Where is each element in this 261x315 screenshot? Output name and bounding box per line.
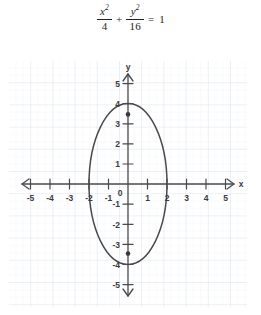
- y-tick-label: -2: [112, 220, 120, 230]
- x-tick-label: -3: [66, 193, 74, 203]
- fraction-numerator: y2: [128, 6, 143, 18]
- graph-panel: -5 -4 -3 -2 -1 1 2 3 4 5 0 5 4 3 2 1 -1: [8, 60, 248, 308]
- x-tick-label: -2: [85, 193, 93, 203]
- coordinate-plane: -5 -4 -3 -2 -1 1 2 3 4 5 0 5 4 3 2 1 -1: [8, 60, 248, 308]
- focus-point-upper: [126, 112, 131, 117]
- fraction-denominator: 16: [126, 21, 143, 33]
- equals-sign: =: [148, 13, 154, 25]
- x-tick-label: -1: [105, 193, 113, 203]
- fraction-x-squared-over-4: x2 4: [97, 6, 112, 32]
- y-tick-label: 5: [115, 79, 120, 89]
- x-tick-label: 5: [223, 193, 228, 203]
- origin-label: 0: [118, 188, 123, 198]
- focus-point-lower: [126, 251, 131, 256]
- y-tick-label: 1: [115, 159, 120, 169]
- y-tick-label: -4: [112, 260, 120, 270]
- y-tick-label: 3: [115, 119, 120, 129]
- y-tick-label: 4: [115, 99, 120, 109]
- exponent-2: 2: [136, 3, 140, 12]
- y-tick-label: -5: [112, 280, 120, 290]
- fraction-numerator: x2: [97, 6, 112, 18]
- y-tick-label: -1: [112, 199, 120, 209]
- y-tick-label: 2: [115, 139, 120, 149]
- fraction-denominator: 4: [99, 21, 111, 33]
- x-tick-label: 2: [165, 193, 170, 203]
- x-axis-label: x: [239, 179, 244, 189]
- x-tick-label: -5: [27, 193, 35, 203]
- equation-container: x2 4 + y2 16 = 1: [0, 6, 261, 32]
- right-hand-side: 1: [159, 13, 165, 25]
- x-tick-label: 1: [145, 193, 150, 203]
- x-tick-label: 3: [184, 193, 189, 203]
- fraction-y-squared-over-16: y2 16: [126, 6, 143, 32]
- plus-operator: +: [116, 13, 122, 25]
- y-axis-label: y: [126, 62, 131, 72]
- ellipse-equation: x2 4 + y2 16 = 1: [96, 6, 165, 32]
- y-tick-label: -3: [112, 240, 120, 250]
- x-tick-label: 4: [204, 193, 209, 203]
- exponent-2: 2: [105, 3, 109, 12]
- x-tick-label: -4: [46, 193, 54, 203]
- worksheet-page: x2 4 + y2 16 = 1: [0, 0, 261, 315]
